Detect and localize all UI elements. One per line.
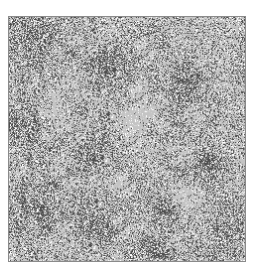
texture-image [9, 17, 245, 261]
image-canvas-area [0, 0, 253, 268]
texture-image-frame [8, 16, 246, 262]
